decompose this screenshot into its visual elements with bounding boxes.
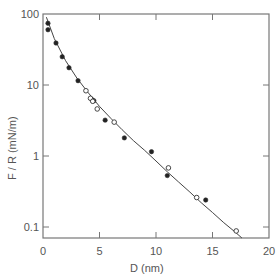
- force-distance-chart: 05101520 0.1110100 D (nm) F / R (mN/m): [0, 0, 279, 280]
- data-points: [46, 21, 239, 233]
- open-data-point: [90, 99, 95, 104]
- y-tick-label: 1: [33, 150, 39, 162]
- y-tick-label: 100: [21, 8, 39, 20]
- y-axis-title: F / R (mN/m): [6, 116, 18, 180]
- x-tick-label: 20: [263, 245, 275, 257]
- filled-data-point: [122, 136, 126, 140]
- fitted-curve: [46, 17, 242, 238]
- filled-data-point: [46, 28, 50, 32]
- open-data-point: [112, 120, 117, 125]
- filled-data-point: [46, 21, 50, 25]
- open-data-point: [194, 195, 199, 200]
- x-axis-title: D (nm): [130, 262, 164, 274]
- filled-data-point: [149, 149, 153, 153]
- filled-data-point: [60, 55, 64, 59]
- y-tick-label: 10: [27, 79, 39, 91]
- filled-data-point: [103, 118, 107, 122]
- open-data-point: [95, 107, 100, 112]
- x-tick-label: 10: [150, 245, 162, 257]
- x-tick-label: 15: [206, 245, 218, 257]
- open-data-point: [84, 88, 89, 93]
- open-data-point: [234, 229, 239, 234]
- x-tick-label: 5: [96, 245, 102, 257]
- filled-data-point: [76, 78, 80, 82]
- filled-data-point: [67, 66, 71, 70]
- filled-data-point: [54, 41, 58, 45]
- filled-data-point: [204, 198, 208, 202]
- plot-frame: [43, 14, 269, 238]
- x-tick-label: 0: [40, 245, 46, 257]
- open-data-point: [166, 166, 171, 171]
- y-tick-label: 0.1: [24, 221, 39, 233]
- x-axis-ticks: 05101520: [40, 14, 275, 257]
- filled-data-point: [165, 173, 169, 177]
